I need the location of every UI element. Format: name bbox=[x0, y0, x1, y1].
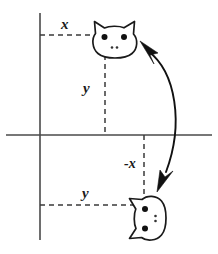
diagram-canvas bbox=[0, 0, 218, 254]
cat-right-eye-icon-rotated bbox=[142, 206, 148, 212]
cat-nose-dot-right-icon-rotated bbox=[154, 215, 157, 218]
cat-left-eye-icon-rotated bbox=[142, 226, 148, 232]
rotation-arrow-head-end-icon bbox=[157, 170, 173, 192]
rotation-diagram: x y -x y bbox=[0, 0, 218, 254]
cat-left-eye-icon bbox=[102, 34, 108, 40]
cat-nose-dot-right-icon bbox=[116, 46, 119, 49]
cat-head-outline bbox=[93, 22, 137, 59]
rotation-arrow-head-start-icon bbox=[140, 41, 158, 64]
cat-face-rotated bbox=[130, 196, 167, 240]
cat-nose-dot-left-icon-rotated bbox=[154, 220, 157, 223]
label-y-lower: y bbox=[82, 186, 89, 201]
cat-nose-dot-left-icon bbox=[111, 46, 114, 49]
cat-right-eye-icon bbox=[121, 34, 127, 40]
label-negative-x: -x bbox=[124, 157, 136, 171]
cat-head-outline-rotated bbox=[130, 196, 167, 240]
rotation-arrow-curve bbox=[148, 51, 176, 172]
guide-lines bbox=[40, 35, 144, 206]
cat-face-original bbox=[93, 22, 137, 59]
rotation-arrow bbox=[140, 41, 176, 192]
label-y-upper: y bbox=[83, 81, 90, 96]
label-x-top: x bbox=[61, 17, 69, 32]
